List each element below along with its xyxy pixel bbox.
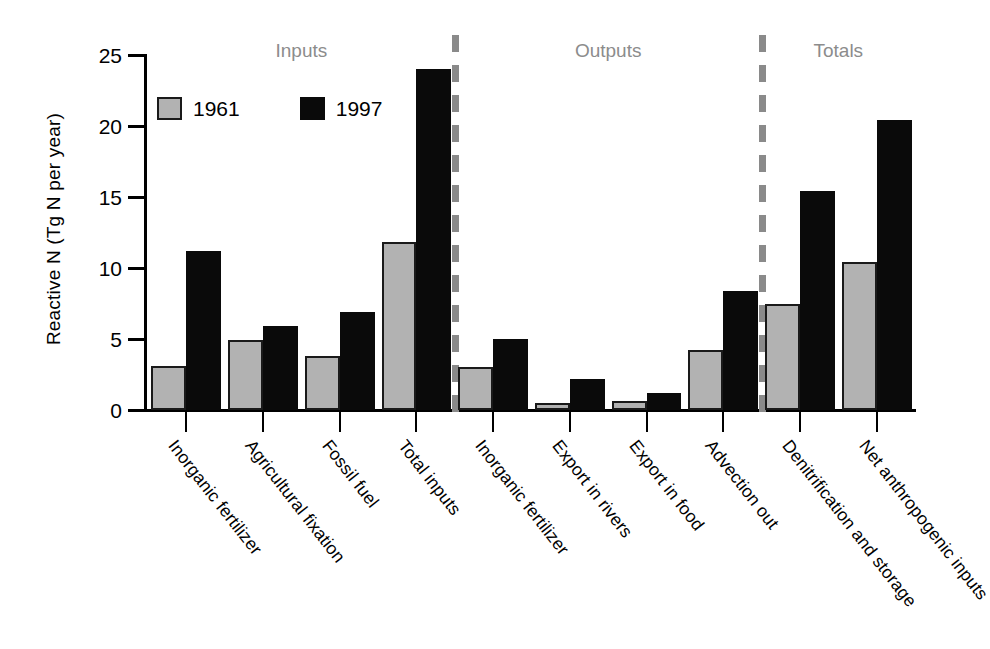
x-tick-4 — [492, 412, 494, 432]
y-tick-label-20: 20 — [62, 116, 122, 137]
x-tick-5 — [569, 412, 571, 432]
bar-1961-3 — [382, 242, 417, 410]
y-tick-0 — [128, 409, 145, 412]
bar-1997-4 — [493, 339, 528, 410]
bar-1961-7 — [688, 350, 723, 410]
y-tick-20 — [128, 125, 145, 128]
bar-1961-4 — [458, 367, 493, 410]
y-tick-label-25: 25 — [62, 45, 122, 66]
bar-1997-0 — [186, 251, 221, 410]
y-tick-25 — [128, 54, 145, 57]
bar-1961-2 — [305, 356, 340, 410]
bar-1961-8 — [765, 304, 800, 411]
y-tick-label-10: 10 — [62, 258, 122, 279]
x-tick-1 — [262, 412, 264, 432]
bar-1997-7 — [723, 291, 758, 410]
x-axis-label-6: Export in food — [624, 436, 708, 535]
x-tick-9 — [876, 412, 878, 432]
x-axis-label-5: Export in rivers — [547, 436, 636, 542]
x-tick-3 — [415, 412, 417, 432]
bar-1961-9 — [842, 262, 877, 410]
x-axis-label-3: Total inputs — [394, 436, 466, 520]
x-tick-0 — [185, 412, 187, 432]
bar-1997-9 — [877, 120, 912, 410]
bar-1997-2 — [340, 312, 375, 410]
y-tick-label-15: 15 — [62, 187, 122, 208]
bar-1961-0 — [151, 366, 186, 410]
x-tick-8 — [799, 412, 801, 432]
bar-1997-8 — [800, 191, 835, 410]
y-tick-label-5: 5 — [62, 329, 122, 350]
x-axis-label-2: Fossil fuel — [317, 436, 383, 512]
y-axis-line — [144, 54, 147, 411]
y-tick-15 — [128, 196, 145, 199]
x-axis-label-8: Denitrification and storage — [777, 436, 920, 611]
x-tick-6 — [646, 412, 648, 432]
bar-1961-6 — [612, 401, 647, 410]
plot-area — [148, 55, 915, 410]
y-tick-5 — [128, 338, 145, 341]
x-axis-label-7: Advection out — [701, 436, 784, 534]
bar-1997-5 — [570, 379, 605, 410]
x-axis-label-9: Net anthropogenic inputs — [854, 436, 990, 604]
bar-1997-3 — [416, 69, 451, 410]
y-tick-label-0: 0 — [62, 400, 122, 421]
x-tick-7 — [722, 412, 724, 432]
bar-1961-5 — [535, 403, 570, 410]
bar-1997-6 — [647, 393, 682, 410]
bar-1997-1 — [263, 326, 298, 410]
x-tick-2 — [339, 412, 341, 432]
bar-1961-1 — [228, 340, 263, 410]
y-tick-10 — [128, 267, 145, 270]
